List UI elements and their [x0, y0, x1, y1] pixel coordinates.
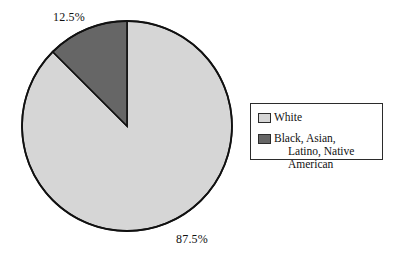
pie-label-minority: 12.5%	[53, 10, 85, 25]
chart-legend: White Black, Asian, Latino, Native Ameri…	[250, 103, 383, 160]
legend-label-minority-line1: Black, Asian,	[274, 132, 336, 144]
legend-label-minority-line2: Latino, Native American	[274, 145, 376, 171]
legend-label-minority: Black, Asian, Latino, Native American	[274, 132, 376, 171]
pie-chart-figure: 12.5% 87.5% White Black, Asian, Latino, …	[0, 0, 397, 260]
legend-label-white: White	[274, 111, 302, 124]
legend-item-minority[interactable]: Black, Asian, Latino, Native American	[258, 132, 376, 171]
legend-swatch-minority-icon	[258, 134, 271, 144]
legend-item-white[interactable]: White	[258, 111, 376, 124]
pie-label-white: 87.5%	[176, 232, 208, 247]
legend-swatch-white-icon	[258, 113, 271, 123]
